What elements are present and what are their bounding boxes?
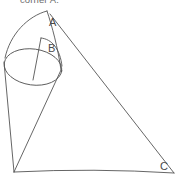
vertex-label-b: B [48,42,55,54]
vertex-label-a: A [49,16,57,28]
figure-drawing: A B C [0,0,179,181]
triangle-right-edge [50,14,174,173]
geometry-figure-container: corner A. A B C [0,0,179,181]
vertex-label-c: C [160,160,168,172]
triangle-bottom-edge [14,170,174,173]
outer-cone-curve [5,11,47,58]
chord-line [33,38,41,80]
